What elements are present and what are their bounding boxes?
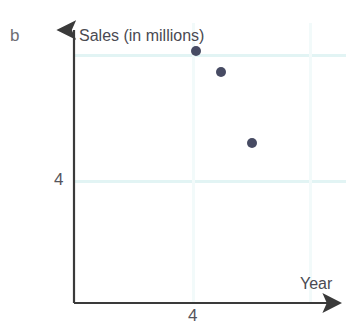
y-axis-tick-label: 4 xyxy=(54,170,63,190)
data-point xyxy=(247,138,257,148)
x-axis-title: Year xyxy=(300,275,332,293)
data-point xyxy=(191,46,201,56)
y-axis-title: Sales (in millions) xyxy=(79,27,204,45)
data-point xyxy=(216,67,226,77)
x-axis-tick-label: 4 xyxy=(188,306,197,326)
scatter-plot-figure: b Sales (in millions) Year 4 4 xyxy=(0,0,354,334)
